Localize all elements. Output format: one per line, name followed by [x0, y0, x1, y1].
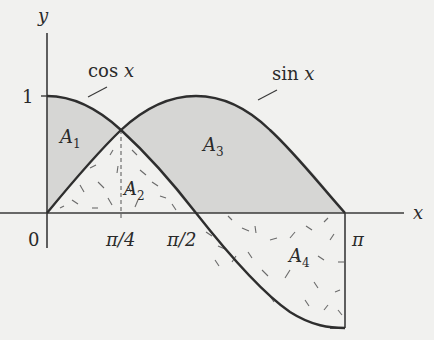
x-tick-pi: π: [351, 229, 365, 250]
cos-label-pointer: [88, 87, 107, 97]
region-a3-fill: [121, 96, 345, 213]
y-axis-label: y: [37, 5, 49, 26]
x-tick-pi-over-2: π/2: [166, 229, 196, 250]
sin-label: sin x: [272, 63, 314, 84]
x-axis-label: x: [413, 202, 423, 223]
region-a4-label: A4: [287, 245, 310, 270]
sin-label-pointer: [258, 90, 277, 100]
area-diagram: y x 1 0 π/4 π/2 π cos x sin x A1 A2 A3 A…: [0, 0, 434, 340]
region-a2-label: A2: [122, 178, 145, 203]
y-tick-label: 1: [22, 86, 33, 107]
origin-label: 0: [28, 229, 39, 250]
x-tick-pi-over-4: π/4: [105, 229, 135, 250]
cos-label: cos x: [88, 60, 134, 81]
